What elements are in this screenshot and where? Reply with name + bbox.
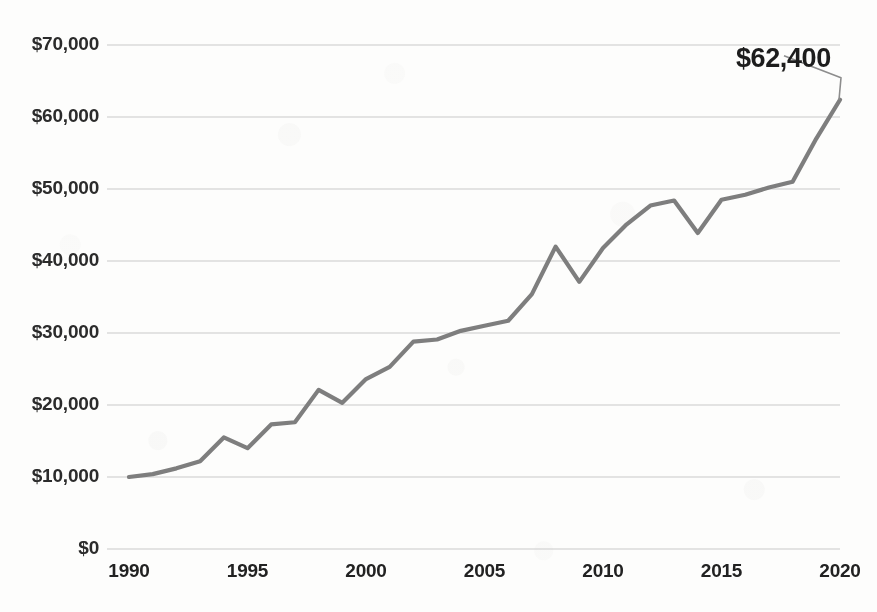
x-axis-tick-label: 2010 [558, 560, 648, 582]
y-axis-tick-label: $70,000 [32, 33, 99, 55]
gridlines [107, 45, 840, 549]
y-axis-tick-label: $20,000 [32, 393, 99, 415]
line-chart: $0$10,000$20,000$30,000$40,000$50,000$60… [0, 0, 877, 612]
y-axis-tick-label: $30,000 [32, 321, 99, 343]
y-axis-tick-label: $0 [78, 537, 99, 559]
plot-area [0, 0, 877, 612]
series-polyline [129, 100, 840, 477]
y-axis-tick-label: $10,000 [32, 465, 99, 487]
x-axis-tick-label: 2005 [440, 560, 530, 582]
endpoint-value-label: $62,400 [736, 43, 831, 74]
x-axis-tick-label: 1990 [84, 560, 174, 582]
data-series-line [129, 100, 840, 477]
y-axis-tick-label: $50,000 [32, 177, 99, 199]
x-axis-tick-label: 1995 [203, 560, 293, 582]
x-axis-tick-label: 2000 [321, 560, 411, 582]
x-axis-tick-label: 2020 [795, 560, 877, 582]
y-axis-tick-label: $60,000 [32, 105, 99, 127]
x-axis-tick-label: 2015 [677, 560, 767, 582]
y-axis-tick-label: $40,000 [32, 249, 99, 271]
